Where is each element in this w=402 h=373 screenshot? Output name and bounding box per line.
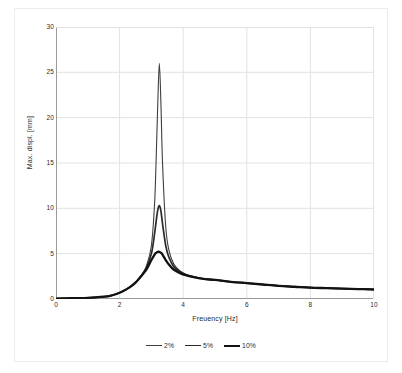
y-axis-title: Max. displ. [mm] — [26, 73, 33, 213]
y-tick-label: 30 — [32, 24, 54, 31]
series-line-10pct — [56, 252, 374, 299]
x-tick-label: 8 — [295, 302, 325, 309]
legend-label: 10% — [242, 343, 256, 350]
x-tick-label: 4 — [168, 302, 198, 309]
series-line-2pct — [56, 63, 374, 298]
plot-svg — [56, 27, 374, 299]
x-tick-label: 2 — [105, 302, 135, 309]
legend-line-swatch — [224, 345, 240, 347]
x-tick-label: 6 — [232, 302, 262, 309]
series-lines — [56, 63, 374, 298]
chart-legend: 2%5%10% — [14, 338, 388, 354]
gridlines — [56, 27, 374, 299]
plot-area — [56, 27, 374, 299]
x-tick-label: 0 — [41, 302, 71, 309]
series-line-5pct — [56, 206, 374, 299]
x-tick-label: 10 — [359, 302, 389, 309]
legend-line-swatch — [185, 345, 201, 346]
y-tick-label: 10 — [32, 205, 54, 212]
legend-line-swatch — [146, 345, 162, 346]
y-tick-label: 5 — [32, 250, 54, 257]
legend-label: 5% — [203, 343, 213, 350]
legend-entry-2pct[interactable]: 2% — [146, 343, 174, 350]
y-tick-label: 20 — [32, 114, 54, 121]
legend-label: 2% — [164, 343, 174, 350]
legend-entry-10pct[interactable]: 10% — [224, 343, 256, 350]
legend-entry-5pct[interactable]: 5% — [185, 343, 213, 350]
chart-figure: 051015202530 0246810 Freuency [Hz] Max. … — [0, 0, 402, 373]
y-tick-label: 15 — [32, 160, 54, 167]
x-axis-title: Freuency [Hz] — [56, 315, 374, 322]
x-axis-tick-labels: 0246810 — [56, 302, 374, 316]
y-tick-label: 25 — [32, 69, 54, 76]
